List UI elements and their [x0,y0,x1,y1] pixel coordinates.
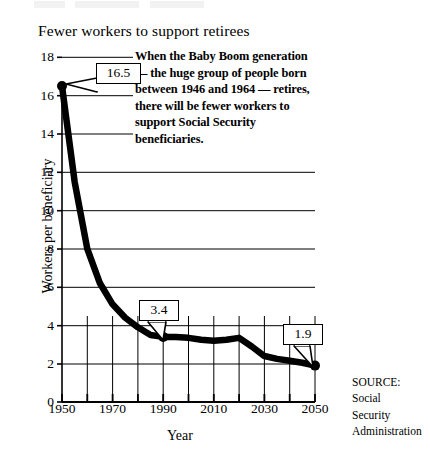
callout-value-last: 1.9 [283,324,323,345]
x-tick-marks [62,394,315,402]
data-point-marker [158,332,168,342]
callout-value-middle: 3.4 [139,300,179,321]
callout-value-first: 16.5 [96,63,141,84]
plot-canvas [0,0,430,468]
data-point-marker [310,361,320,371]
chart-figure: Fewer workers to support retirees [0,0,430,468]
data-point-marker [57,81,67,91]
